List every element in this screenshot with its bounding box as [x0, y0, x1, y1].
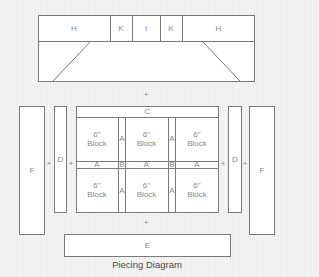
- block-word: Block: [187, 191, 207, 199]
- plus-sign-top: +: [144, 91, 149, 99]
- piece-e: E: [64, 234, 231, 257]
- plus-sign-right-inner: +: [221, 160, 226, 168]
- block-6in: 6" Block: [125, 168, 168, 213]
- block-6in: 6" Block: [175, 117, 219, 161]
- piece-d-right: D: [228, 106, 242, 213]
- block-size: 6": [193, 182, 200, 190]
- block-word: Block: [137, 140, 157, 148]
- diagonal-right: [202, 41, 240, 81]
- block-size: 6": [93, 182, 100, 190]
- diagonal-left: [53, 41, 91, 81]
- block-word: Block: [187, 140, 207, 148]
- plus-sign-left-outer: +: [47, 160, 52, 168]
- block-word: Block: [87, 191, 107, 199]
- plus-sign-right-outer: +: [243, 160, 248, 168]
- block-6in: 6" Block: [175, 168, 219, 213]
- block-size: 6": [143, 131, 150, 139]
- piece-f-right: F: [249, 106, 275, 235]
- piece-d-left: D: [54, 106, 67, 213]
- piece-c: C: [76, 106, 219, 117]
- diagram-caption: Piecing Diagram: [0, 259, 290, 270]
- block-size: 6": [193, 131, 200, 139]
- block-word: Block: [87, 140, 107, 148]
- block-size: 6": [93, 131, 100, 139]
- plus-sign-left-inner: +: [69, 160, 74, 168]
- block-word: Block: [137, 191, 157, 199]
- block-6in: 6" Block: [76, 117, 118, 161]
- block-6in: 6" Block: [125, 117, 168, 161]
- block-6in: 6" Block: [76, 168, 118, 213]
- plus-sign-bottom: +: [144, 219, 149, 227]
- block-size: 6": [143, 182, 150, 190]
- piece-f-left: F: [19, 106, 45, 235]
